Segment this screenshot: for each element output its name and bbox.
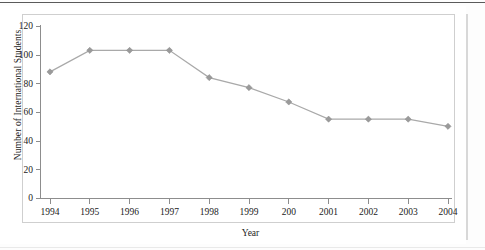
figure-right-border xyxy=(466,14,468,240)
x-tick-label: 1994 xyxy=(41,207,60,217)
x-axis-ticks: 1994199519961997199819992002001200220032… xyxy=(41,199,458,218)
x-tick-label: 2004 xyxy=(439,207,458,217)
data-point-marker xyxy=(127,47,133,53)
data-point-marker xyxy=(47,69,53,75)
x-tick-label: 1995 xyxy=(80,207,99,217)
x-tick-label: 2001 xyxy=(319,207,338,217)
data-point-marker xyxy=(87,47,93,53)
data-point-marker xyxy=(365,116,371,122)
page-bottom-rule xyxy=(0,247,485,248)
plot-frame xyxy=(23,15,455,223)
y-tick-label: 20 xyxy=(24,165,34,175)
y-tick-label: 120 xyxy=(19,21,34,31)
data-point-marker xyxy=(445,123,451,129)
series-markers xyxy=(47,47,451,129)
x-tick-label: 1999 xyxy=(240,207,259,217)
x-tick-label: 1998 xyxy=(200,207,219,217)
chart-plot-area: 020406080100120 199419951996199719981999… xyxy=(0,6,466,244)
x-tick-label: 200 xyxy=(282,207,297,217)
page-background: Number of International Students Year 02… xyxy=(0,0,485,250)
y-tick-label: 40 xyxy=(24,136,34,146)
x-tick-label: 2003 xyxy=(399,207,418,217)
x-tick-label: 1997 xyxy=(160,207,179,217)
data-point-marker xyxy=(405,116,411,122)
y-tick-label: 60 xyxy=(24,107,34,117)
x-tick-label: 2002 xyxy=(359,207,378,217)
y-tick-label: 0 xyxy=(28,193,33,203)
x-tick-label: 1996 xyxy=(120,207,139,217)
y-tick-label: 80 xyxy=(24,79,34,89)
data-point-marker xyxy=(246,85,252,91)
page-top-rule xyxy=(0,2,485,3)
y-tick-label: 100 xyxy=(19,50,34,60)
chart-figure: Number of International Students Year 02… xyxy=(0,6,466,244)
data-point-marker xyxy=(326,116,332,122)
data-point-marker xyxy=(286,99,292,105)
